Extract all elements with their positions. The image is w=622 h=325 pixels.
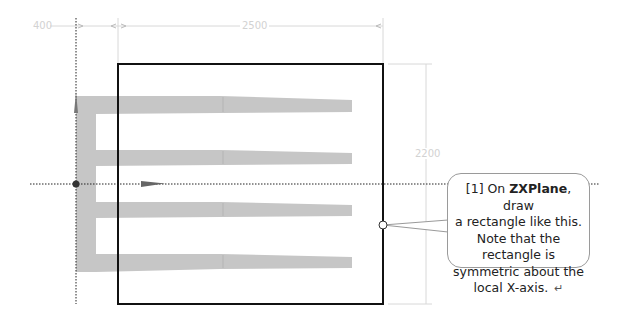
dimension-label-offset: 400: [33, 20, 52, 31]
instruction-callout: [1] On ZXPlane, draw a rectangle like th…: [447, 173, 590, 268]
plane-name: ZXPlane: [509, 181, 567, 196]
callout-line-3: Note that the rectangle is: [452, 231, 585, 264]
callout-line-1: [1] On ZXPlane, draw: [452, 181, 585, 214]
dimension-label-width: 2500: [240, 20, 269, 31]
callout-line-2: a rectangle like this.: [452, 214, 585, 231]
anchor-point-icon[interactable]: [379, 221, 387, 229]
x-axis-arrow-icon: [141, 181, 165, 187]
enter-icon: ↵: [554, 281, 563, 298]
dimension-label-height: 2200: [414, 148, 441, 159]
callout-line-4: symmetric about the: [452, 264, 585, 281]
callout-leader: [383, 220, 448, 232]
origin-point-icon: [73, 181, 80, 188]
callout-line-5: local X-axis.↵: [452, 280, 585, 298]
